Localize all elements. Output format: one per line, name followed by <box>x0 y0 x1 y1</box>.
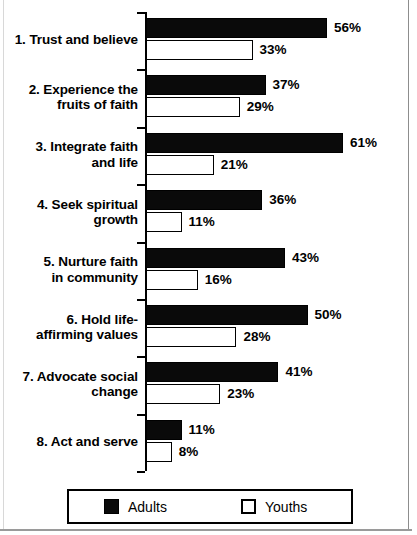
category-label-line: affirming values <box>0 327 138 343</box>
bar-adults <box>146 18 327 38</box>
category-label: 3. Integrate faithand life <box>0 139 138 170</box>
bar-youths <box>146 442 172 462</box>
category-label: 8. Act and serve <box>0 434 138 450</box>
legend-item-adults: Adults <box>104 491 167 522</box>
category-label-line: 5. Nurture faith <box>0 254 138 270</box>
bar-group: 2. Experience thefruits of faith37%29% <box>0 75 417 117</box>
category-label: 7. Advocate socialchange <box>0 369 138 400</box>
legend-label-youths: Youths <box>265 499 307 515</box>
bar-adults <box>146 190 262 210</box>
bar-value-youths: 29% <box>247 97 274 117</box>
bar-adults <box>146 305 308 325</box>
category-label-line: fruits of faith <box>0 97 138 113</box>
bar-group: 5. Nurture faithin community43%16% <box>0 248 417 290</box>
bar-youths <box>146 384 220 404</box>
axis-tick <box>137 356 145 358</box>
bar-value-adults: 37% <box>273 75 300 95</box>
bar-value-youths: 16% <box>205 270 232 290</box>
category-label: 5. Nurture faithin community <box>0 254 138 285</box>
bar-value-youths: 8% <box>179 442 199 462</box>
bar-group: 3. Integrate faithand life61%21% <box>0 133 417 175</box>
bar-row-adults: 50% <box>146 305 417 325</box>
axis-tick <box>137 127 145 129</box>
bar-value-youths: 11% <box>189 212 215 232</box>
bar-group: 6. Hold life-affirming values50%28% <box>0 305 417 347</box>
bar-youths <box>146 270 198 290</box>
bar-value-adults: 56% <box>334 18 361 38</box>
axis-tick <box>137 299 145 301</box>
plot-area: 1. Trust and believe56%33%2. Experience … <box>0 0 417 480</box>
axis-tick <box>137 414 145 416</box>
bar-row-adults: 37% <box>146 75 417 95</box>
legend-item-youths: Youths <box>241 491 307 522</box>
bar-adults <box>146 133 343 153</box>
bar-youths <box>146 40 253 60</box>
legend-swatch-adults-icon <box>104 499 119 514</box>
bar-value-youths: 33% <box>260 40 287 60</box>
axis-tick <box>137 12 145 14</box>
bar-row-youths: 8% <box>146 442 417 462</box>
bar-row-youths: 28% <box>146 327 417 347</box>
bar-value-youths: 21% <box>221 155 248 175</box>
category-label: 6. Hold life-affirming values <box>0 312 138 343</box>
bar-row-youths: 16% <box>146 270 417 290</box>
category-label-line: 1. Trust and believe <box>0 32 138 48</box>
category-label-line: growth <box>0 212 138 228</box>
category-label: 4. Seek spiritualgrowth <box>0 197 138 228</box>
category-label: 1. Trust and believe <box>0 32 138 48</box>
legend-swatch-youths-icon <box>241 499 256 514</box>
bar-value-adults: 11% <box>189 420 215 440</box>
category-label-line: 6. Hold life- <box>0 312 138 328</box>
category-label-line: change <box>0 384 138 400</box>
category-label-line: 7. Advocate social <box>0 369 138 385</box>
bar-row-adults: 41% <box>146 362 417 382</box>
bar-value-youths: 23% <box>227 384 254 404</box>
axis-tick <box>137 471 145 473</box>
bar-row-adults: 36% <box>146 190 417 210</box>
bar-youths <box>146 97 240 117</box>
bar-group: 7. Advocate socialchange41%23% <box>0 362 417 404</box>
legend-label-adults: Adults <box>128 499 167 515</box>
bar-group: 1. Trust and believe56%33% <box>0 18 417 60</box>
category-label-line: 4. Seek spiritual <box>0 197 138 213</box>
axis-tick <box>137 242 145 244</box>
bar-adults <box>146 248 285 268</box>
bar-value-adults: 36% <box>269 190 296 210</box>
bar-adults <box>146 75 266 95</box>
frame-bottom-border <box>0 529 412 531</box>
category-label: 2. Experience thefruits of faith <box>0 82 138 113</box>
bar-row-youths: 23% <box>146 384 417 404</box>
bar-value-adults: 61% <box>350 133 377 153</box>
bar-row-youths: 33% <box>146 40 417 60</box>
bar-chart-figure: 1. Trust and believe56%33%2. Experience … <box>0 0 417 535</box>
bar-value-youths: 28% <box>243 327 270 347</box>
bar-adults <box>146 420 182 440</box>
bar-row-youths: 21% <box>146 155 417 175</box>
chart-legend: Adults Youths <box>67 489 353 524</box>
category-label-line: in community <box>0 270 138 286</box>
category-label-line: 3. Integrate faith <box>0 139 138 155</box>
bar-youths <box>146 155 214 175</box>
bar-row-adults: 61% <box>146 133 417 153</box>
bar-row-youths: 29% <box>146 97 417 117</box>
bar-value-adults: 50% <box>315 305 342 325</box>
bar-value-adults: 43% <box>292 248 319 268</box>
bar-youths <box>146 212 182 232</box>
bar-row-adults: 11% <box>146 420 417 440</box>
bar-group: 8. Act and serve11%8% <box>0 420 417 462</box>
axis-tick <box>137 184 145 186</box>
bar-row-youths: 11% <box>146 212 417 232</box>
category-label-line: 2. Experience the <box>0 82 138 98</box>
bar-row-adults: 56% <box>146 18 417 38</box>
bar-group: 4. Seek spiritualgrowth36%11% <box>0 190 417 232</box>
category-label-line: 8. Act and serve <box>0 434 138 450</box>
bar-adults <box>146 362 278 382</box>
category-label-line: and life <box>0 155 138 171</box>
bar-value-adults: 41% <box>285 362 312 382</box>
bar-row-adults: 43% <box>146 248 417 268</box>
bar-youths <box>146 327 236 347</box>
axis-tick <box>137 69 145 71</box>
